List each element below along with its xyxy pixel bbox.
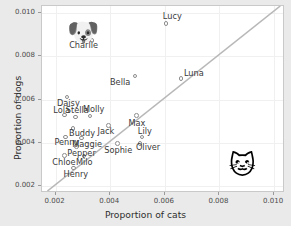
x-tick-mark: [218, 192, 219, 195]
x-tick-label: 0.002: [35, 197, 75, 205]
y-tick-label: 0.010: [0, 8, 35, 16]
point-label: Molly: [83, 105, 104, 114]
y-axis-title: Proportion of dogs: [12, 76, 23, 160]
point-label: Lucy: [163, 12, 182, 21]
x-tick-mark: [109, 192, 110, 195]
x-tick-label: 0.004: [89, 197, 129, 205]
y-tick-mark: [38, 55, 41, 56]
point-label: Sophie: [104, 146, 132, 155]
point-label: Lily: [138, 127, 152, 136]
point-label: Chloe: [52, 158, 75, 167]
y-tick-mark: [38, 12, 41, 13]
y-tick-mark: [38, 142, 41, 143]
cat-face-emoji: 🐱: [229, 152, 256, 178]
dog-face-emoji: 🐶: [67, 19, 99, 45]
y-tick-mark: [38, 185, 41, 186]
x-tick-label: 0.008: [198, 197, 238, 205]
y-tick-label: 0.008: [0, 51, 35, 59]
x-tick-mark: [55, 192, 56, 195]
x-tick-mark: [273, 192, 274, 195]
plot-area: LucyCharlieLunaBellaDaisyLolaStellaMolly…: [41, 5, 284, 192]
x-tick-mark: [164, 192, 165, 195]
x-tick-label: 0.006: [144, 197, 184, 205]
point-label: Oliver: [136, 143, 160, 152]
data-point: [164, 21, 169, 26]
point-label: Jack: [98, 127, 115, 136]
point-label: Luna: [184, 69, 204, 78]
data-point: [179, 76, 184, 81]
point-label: Milo: [76, 158, 93, 167]
point-label: Bella: [110, 78, 130, 87]
x-tick-label: 0.010: [253, 197, 291, 205]
point-label: Henry: [64, 170, 89, 179]
y-tick-label: 0.002: [0, 181, 35, 189]
y-tick-mark: [38, 99, 41, 100]
x-axis-title: Proportion of cats: [0, 209, 291, 220]
scatter-plot-figure: LucyCharlieLunaBellaDaisyLolaStellaMolly…: [0, 0, 291, 226]
